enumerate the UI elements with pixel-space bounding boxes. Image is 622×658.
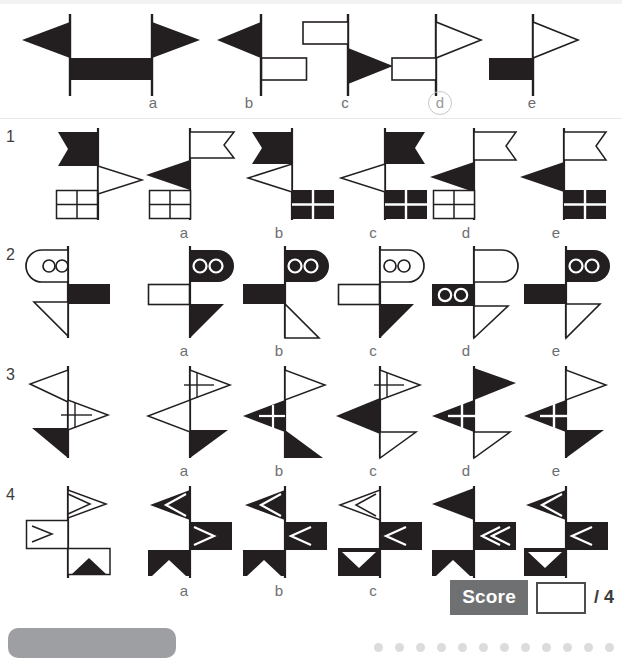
example-label-a: a: [133, 94, 173, 111]
example-label-e: e: [512, 94, 552, 111]
row-4-number: 4: [6, 486, 15, 504]
row-3-label-a: a: [164, 462, 204, 479]
row-1: 1: [0, 124, 622, 236]
example-label-c: c: [325, 94, 365, 111]
row-3-label-d: d: [446, 462, 486, 479]
page-dot[interactable]: [437, 643, 446, 652]
page-dot[interactable]: [395, 643, 404, 652]
row-4-label-c: c: [353, 582, 393, 599]
row-4-label-b: b: [259, 582, 299, 599]
row-2-label-c: c: [353, 342, 393, 359]
score-total: / 4: [594, 587, 614, 608]
row-2-number: 2: [6, 246, 15, 264]
row-4-prompt-flagpole: [18, 482, 128, 582]
example-option-c[interactable]: [293, 8, 403, 108]
page-dot[interactable]: [374, 643, 383, 652]
row-2: 2: [0, 242, 622, 354]
example-option-a[interactable]: [104, 8, 214, 108]
row-4-option-a[interactable]: [140, 482, 250, 582]
page-dot[interactable]: [500, 643, 509, 652]
row-1-option-e[interactable]: [516, 124, 622, 224]
bottom-toolbar-pill[interactable]: [8, 628, 176, 658]
row-2-option-a[interactable]: [140, 242, 250, 342]
page-dot[interactable]: [584, 643, 593, 652]
row-3-prompt-flagpole: [18, 362, 128, 462]
row-2-label-d: d: [446, 342, 486, 359]
page-dot[interactable]: [416, 643, 425, 652]
page-dot[interactable]: [542, 643, 551, 652]
row-1-option-b[interactable]: [238, 124, 348, 224]
example-label-d: d: [420, 91, 460, 115]
row-2-label-a: a: [164, 342, 204, 359]
row-2-prompt-flagpole: [18, 242, 128, 342]
row-1-label-c: c: [353, 224, 393, 241]
row-1-label-b: b: [259, 224, 299, 241]
row-3-option-a[interactable]: [140, 362, 250, 462]
page-dot[interactable]: [521, 643, 530, 652]
example-prompt-flagpole: [8, 8, 118, 108]
page-dot[interactable]: [479, 643, 488, 652]
row-1-label-a: a: [164, 224, 204, 241]
page-dot[interactable]: [605, 643, 614, 652]
selected-answer-ring: d: [428, 91, 452, 115]
example-label-b: b: [229, 94, 269, 111]
score-area: Score / 4: [450, 580, 614, 615]
row-2-option-b[interactable]: [235, 242, 345, 342]
row-2-label-e: e: [536, 342, 576, 359]
row-3-number: 3: [6, 366, 15, 384]
example-row: a b c d e: [0, 4, 622, 116]
row-4: 4: [0, 482, 622, 594]
row-1-label-e: e: [536, 224, 576, 241]
score-label: Score: [450, 580, 528, 615]
row-2-option-e[interactable]: [516, 242, 622, 342]
row-4-label-a: a: [164, 582, 204, 599]
row-1-label-d: d: [446, 224, 486, 241]
row-4-option-e[interactable]: [516, 482, 622, 582]
row-3: 3: [0, 362, 622, 474]
row-3-label-b: b: [259, 462, 299, 479]
row-3-option-b[interactable]: [235, 362, 345, 462]
row-3-label-e: e: [536, 462, 576, 479]
row-1-prompt-flagpole: [42, 124, 152, 224]
row-3-label-c: c: [353, 462, 393, 479]
score-input-box[interactable]: [536, 582, 586, 614]
row-4-option-b[interactable]: [235, 482, 345, 582]
bottom-page-dots[interactable]: [374, 643, 614, 652]
row-1-number: 1: [6, 128, 15, 146]
row-3-option-e[interactable]: [516, 362, 622, 462]
divider-example: [0, 118, 622, 119]
page-dot[interactable]: [563, 643, 572, 652]
row-2-label-b: b: [259, 342, 299, 359]
page-dot[interactable]: [458, 643, 467, 652]
row-1-option-a[interactable]: [142, 124, 252, 224]
example-option-e[interactable]: [481, 8, 591, 108]
